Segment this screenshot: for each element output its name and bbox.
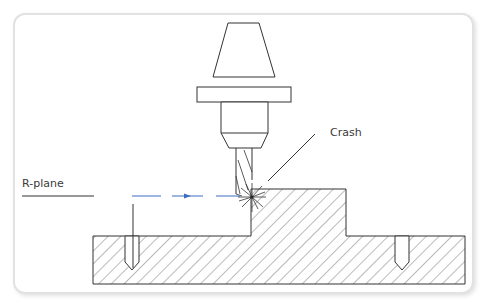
left-drilled-hole — [125, 236, 139, 270]
right-drilled-hole — [395, 236, 409, 270]
end-mill — [236, 148, 252, 196]
machining-crash-diagram — [0, 0, 487, 302]
tool-holder-taper — [213, 23, 275, 77]
tool-holder-collet — [221, 102, 268, 148]
rapid-toolpath-arrow — [132, 194, 240, 199]
crash-leader-line — [268, 134, 315, 181]
crash-label: Crash — [330, 126, 362, 139]
tool-holder-flange — [197, 87, 291, 102]
r-plane-label: R-plane — [22, 177, 64, 190]
